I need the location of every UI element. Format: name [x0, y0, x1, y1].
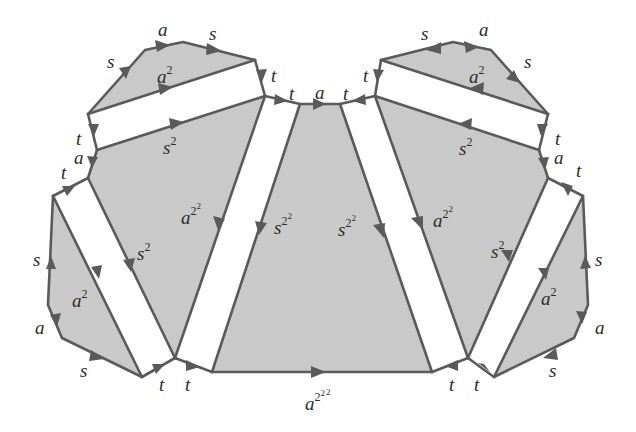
van-kampen-diagram: s a s a2 t t a t t s a s a2 t a t s2 t a…	[0, 0, 636, 432]
label-right-a-small: a	[554, 147, 564, 168]
label-bottom-t3: t	[449, 374, 455, 395]
label-left-cap-s: s	[107, 51, 114, 72]
label-left-low-a: a	[35, 317, 45, 338]
arrow-left-t-vert-icon	[88, 124, 99, 136]
arrow-right-a22-icon	[411, 216, 423, 230]
label-center-top-a: a	[315, 82, 325, 103]
edge-right-bottom-t1	[468, 358, 494, 377]
arrow-bottom-t3-icon	[445, 360, 458, 371]
label-left-strip-t: t	[76, 128, 82, 149]
label-left-t1: t	[271, 65, 277, 86]
label-bottom-t4: t	[474, 374, 480, 395]
label-right-cap-a: a	[479, 19, 489, 40]
arrow-right-low-t-icon	[561, 182, 573, 196]
label-bottom-t1: t	[159, 374, 165, 395]
label-left-t2: t	[289, 83, 295, 104]
label-right-strip-t: t	[555, 128, 561, 149]
label-bottom-t2: t	[185, 374, 191, 395]
label-right-t-small: t	[576, 160, 582, 181]
label-left-a-small: a	[74, 147, 84, 168]
label-left-low-s-bottom: s	[80, 360, 87, 381]
label-left-t-small: t	[61, 162, 67, 183]
label-right-cap-s: s	[421, 23, 428, 44]
label-right-t1: t	[363, 65, 369, 86]
label-right-t2: t	[343, 83, 349, 104]
label-left-low-s: s	[33, 249, 40, 270]
label-right-low-s-bottom: s	[549, 360, 556, 381]
label-bottom-a222: a222	[305, 387, 331, 414]
label-right-low-s: s	[595, 249, 602, 270]
label-left-cap-a: a	[158, 19, 168, 40]
arrow-left-t-topright-icon	[256, 69, 267, 82]
label-left-cap-s2: s	[209, 23, 216, 44]
label-right-cap-s2: s	[524, 51, 531, 72]
label-right-low-a: a	[595, 317, 605, 338]
